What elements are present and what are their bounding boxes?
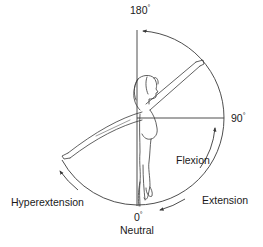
hyperextension-arrow-icon — [60, 171, 78, 190]
degree-symbol: ° — [243, 112, 246, 119]
raised-arm — [146, 60, 204, 110]
angle-0-text: 0 — [134, 211, 140, 223]
range-of-motion-diagram — [0, 0, 263, 247]
figure-back — [140, 114, 141, 206]
label-extension: Extension — [202, 195, 248, 206]
figure-torso — [144, 110, 157, 199]
label-90: 90° — [231, 113, 246, 124]
label-neutral: Neutral — [120, 225, 154, 236]
label-0: 0° — [134, 212, 143, 223]
label-hyperextension: Hyperextension — [11, 197, 84, 208]
label-180: 180° — [130, 5, 150, 16]
extended-arm — [62, 112, 142, 159]
angle-90-text: 90 — [231, 112, 243, 124]
degree-symbol: ° — [140, 211, 143, 218]
angle-180-text: 180 — [130, 4, 148, 16]
label-flexion: Flexion — [176, 155, 210, 166]
figure-legs — [138, 165, 145, 206]
human-figure — [62, 60, 204, 206]
degree-symbol: ° — [148, 4, 151, 11]
